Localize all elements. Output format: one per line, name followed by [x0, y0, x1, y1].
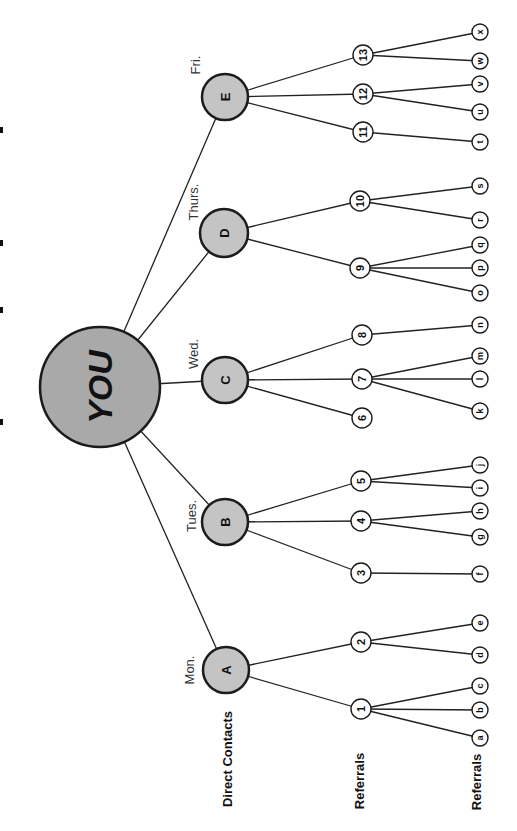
edge-1-to-b [361, 709, 480, 710]
edge-12-to-u [363, 94, 480, 112]
referral-label: 13 [357, 49, 369, 61]
referral-tree-diagram: YOUA1cba2edB3f4hg5jiC67mlk8nD9qpo10srE11… [0, 0, 517, 831]
day-label: Wed. [186, 339, 201, 369]
edge-10-to-s [360, 186, 480, 201]
edge-2-to-e [361, 623, 480, 642]
second-referral-label: j [475, 464, 485, 468]
referral-label: 8 [356, 332, 368, 338]
second-referral-label: g [475, 534, 485, 540]
second-referral-label: q [475, 242, 485, 248]
edge-4-to-h [361, 511, 480, 521]
second-referral-label: n [475, 322, 485, 328]
edge-10-to-r [360, 201, 480, 220]
second-referral-label: b [475, 707, 485, 713]
edge-5-to-j [361, 465, 480, 481]
edge-9-to-o [360, 268, 480, 293]
second-referral-label: e [475, 620, 485, 625]
referral-label: 12 [357, 88, 369, 100]
edge-1-to-a [361, 709, 480, 738]
referral-label: 5 [355, 478, 367, 484]
cut-off-title [0, 127, 3, 425]
referral-label: 11 [357, 126, 369, 138]
level-labels: Mon.Tues.Wed.Thurs.Fri.Direct ContactsRe… [182, 56, 484, 811]
edge-1-to-c [361, 686, 480, 709]
second-referral-label: t [475, 141, 485, 144]
edge-13-to-w [363, 55, 480, 61]
referral-label: 1 [355, 706, 367, 712]
second-referral-label: l [475, 378, 485, 381]
referral-label: 10 [354, 195, 366, 207]
edge-3-to-f [361, 573, 480, 574]
direct-contact-label: A [219, 665, 234, 675]
edge-13-to-x [363, 32, 480, 55]
day-label: Tues. [184, 500, 199, 532]
referral-label: 4 [355, 517, 367, 524]
referral-label: 2 [355, 639, 367, 645]
second-referral-label: h [475, 508, 485, 514]
day-label: Thurs. [186, 184, 201, 221]
day-label: Mon. [182, 656, 197, 685]
referral-label: 9 [354, 265, 366, 271]
edge-9-to-q [360, 245, 480, 268]
edge-12-to-v [363, 84, 480, 94]
second-referral-label: u [475, 109, 485, 115]
edge-7-to-m [362, 356, 480, 379]
second-referral-label: v [475, 81, 485, 86]
referral-label: 7 [356, 376, 368, 382]
title-fragment [0, 240, 3, 246]
second-referral-label: i [475, 487, 485, 490]
referral-label: 3 [355, 570, 367, 576]
level-label-ref1: Referrals [352, 753, 367, 809]
second-referral-label: p [475, 265, 485, 271]
direct-contact-label: E [218, 92, 233, 101]
second-referral-label: w [475, 57, 485, 66]
day-label: Fri. [188, 56, 203, 75]
second-referral-label: m [475, 352, 485, 360]
edge-11-to-t [363, 132, 480, 142]
title-fragment [0, 127, 3, 133]
second-referral-label: d [475, 652, 485, 658]
tree-nodes: YOUA1cba2edB3f4hg5jiC67mlk8nD9qpo10srE11… [40, 24, 488, 746]
second-referral-label: c [475, 683, 485, 688]
root-label: YOU [81, 349, 119, 424]
direct-contact-label: C [218, 375, 233, 385]
edge-8-to-n [362, 325, 480, 335]
direct-contact-label: B [218, 517, 233, 526]
level-label-direct: Direct Contacts [220, 711, 235, 807]
edge-5-to-i [361, 481, 480, 488]
referral-label: 6 [356, 415, 368, 421]
edge-2-to-d [361, 642, 480, 655]
second-referral-label: x [475, 29, 485, 34]
title-fragment [0, 307, 3, 313]
edge-4-to-g [361, 521, 480, 537]
title-fragment [0, 419, 3, 425]
edge-7-to-k [362, 379, 480, 411]
second-referral-label: r [475, 218, 485, 222]
direct-contact-label: D [217, 228, 232, 237]
second-referral-label: s [475, 183, 485, 188]
level-label-ref2: Referrals [469, 754, 484, 810]
second-referral-label: o [475, 290, 485, 296]
